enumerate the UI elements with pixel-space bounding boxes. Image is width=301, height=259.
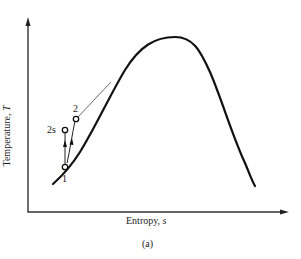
figure-caption: (a) [142,239,153,249]
ts-diagram: Temperature, T Entropy, s 1 2 2s (a) [0,0,301,259]
arrow-up-icon [63,140,67,147]
state-point-1 [62,164,67,169]
state-point-2 [73,116,78,121]
x-axis [27,210,289,215]
point-label-2s-text: 2s [47,124,56,135]
y-axis-label-text: Temperature, [1,111,12,166]
process-line-2-to-dome [78,82,111,117]
x-axis-label-text: Entropy, [126,215,163,226]
x-axis-label: Entropy, s [126,216,166,226]
x-axis-arrow-icon [280,210,289,215]
process-1-to-2s [63,133,67,164]
y-axis-symbol: T [1,106,12,112]
state-point-2s [62,127,67,132]
x-axis-symbol: s [163,215,167,226]
point-label-2: 2 [73,104,78,114]
point-label-2s: 2s [47,125,56,135]
y-axis-arrow-icon [26,17,31,26]
process-1-to-2 [67,121,75,163]
point-label-1: 1 [62,174,67,184]
y-axis-label: Temperature, T [2,106,12,167]
y-axis [26,17,31,212]
